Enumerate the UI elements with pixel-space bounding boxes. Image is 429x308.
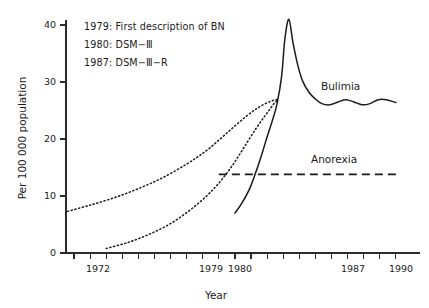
incidence-line-chart: 0 10 20 30 40 1972 1979 1980 1987 1990 Y…	[0, 0, 429, 308]
y-tick-label-40: 40	[44, 19, 56, 30]
y-tick-label-10: 10	[44, 190, 56, 201]
x-axis-tick-labels: 1972 1979 1980 1987 1990	[86, 263, 413, 274]
annotation-1979: 1979: First description of BN	[84, 21, 225, 32]
x-tick-label-1990: 1990	[389, 263, 413, 274]
y-tick-label-0: 0	[50, 247, 56, 258]
series-line-bulimia	[235, 19, 396, 213]
x-axis-ticks	[74, 253, 396, 259]
x-axis-title: Year	[204, 289, 228, 301]
series-label-bulimia: Bulimia	[321, 80, 360, 92]
y-axis-ticks	[60, 25, 66, 253]
y-axis-title: Per 100 000 population	[16, 77, 28, 200]
x-tick-label-1979: 1979	[199, 263, 223, 274]
y-tick-label-30: 30	[44, 76, 56, 87]
annotation-1987: 1987: DSM−Ⅲ−R	[84, 57, 168, 68]
x-tick-label-1980: 1980	[228, 263, 252, 274]
y-tick-label-20: 20	[44, 133, 56, 144]
series-label-anorexia: Anorexia	[311, 153, 357, 165]
chart-figure: 0 10 20 30 40 1972 1979 1980 1987 1990 Y…	[0, 0, 429, 308]
annotation-1980: 1980: DSM−Ⅲ	[84, 39, 153, 50]
x-tick-label-1987: 1987	[341, 263, 365, 274]
x-tick-label-1972: 1972	[86, 263, 110, 274]
y-axis-tick-labels: 0 10 20 30 40	[44, 19, 56, 258]
